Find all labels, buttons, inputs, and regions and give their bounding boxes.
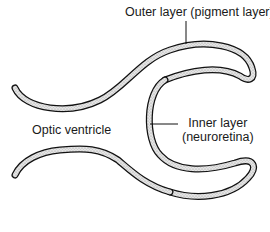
inner-layer-label: Inner layer (neuroretina) bbox=[182, 116, 254, 144]
inner-layer-label-line2: (neuroretina) bbox=[182, 130, 254, 144]
outer-layer-label: Outer layer (pigment layer) bbox=[125, 5, 270, 19]
optic-ventricle-label: Optic ventricle bbox=[32, 123, 111, 137]
inner-layer-label-line1: Inner layer bbox=[182, 116, 254, 130]
lower-tube bbox=[15, 149, 170, 192]
upper-tube bbox=[15, 44, 253, 108]
